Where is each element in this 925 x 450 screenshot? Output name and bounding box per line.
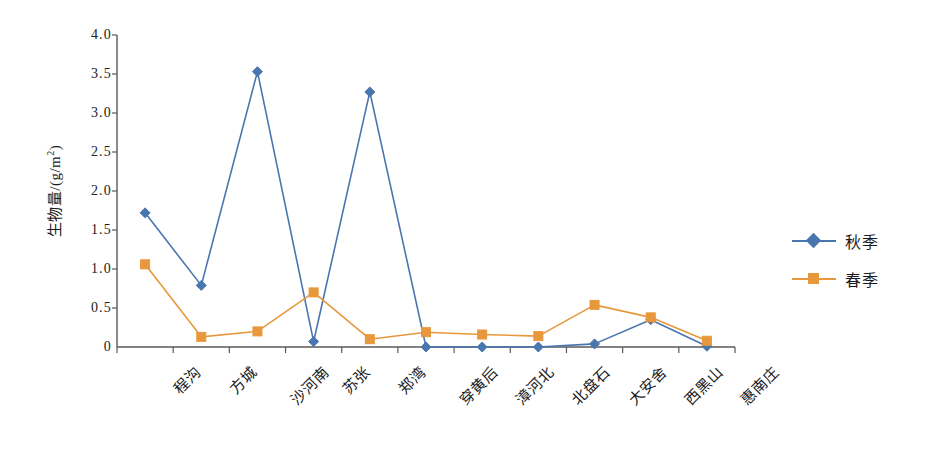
biomass-line-chart: 生物量/(g/m2) 4.03.53.02.52.01.51.00.50 程沟方… — [0, 0, 925, 450]
data-point-square — [253, 327, 262, 336]
data-point-square — [646, 313, 655, 322]
legend-marker-diamond-icon — [806, 233, 822, 249]
legend-item[interactable]: 春季 — [792, 260, 922, 298]
data-point-square — [478, 330, 487, 339]
data-series — [140, 67, 712, 352]
legend-marker-square-icon — [808, 273, 819, 284]
legend-symbol — [792, 234, 836, 248]
data-point-square — [534, 332, 543, 341]
series-diamond — [140, 67, 712, 352]
legend-label: 春季 — [845, 267, 879, 291]
data-point-diamond — [421, 342, 431, 352]
data-point-square — [197, 332, 206, 341]
series-line — [145, 72, 707, 347]
series-square — [141, 260, 712, 345]
data-point-square — [309, 288, 318, 297]
plot-area — [0, 0, 925, 450]
data-point-square — [702, 336, 711, 345]
data-point-square — [422, 328, 431, 337]
legend-symbol — [792, 272, 836, 286]
legend-item[interactable]: 秋季 — [792, 222, 922, 260]
axes — [112, 35, 735, 353]
data-point-diamond — [365, 87, 375, 97]
data-point-square — [590, 300, 599, 309]
legend: 秋季春季 — [792, 222, 922, 298]
data-point-diamond — [533, 342, 543, 352]
data-point-square — [141, 260, 150, 269]
data-point-square — [365, 335, 374, 344]
legend-label: 秋季 — [845, 229, 879, 253]
data-point-diamond — [309, 337, 319, 347]
data-point-diamond — [252, 67, 262, 77]
data-point-diamond — [477, 342, 487, 352]
